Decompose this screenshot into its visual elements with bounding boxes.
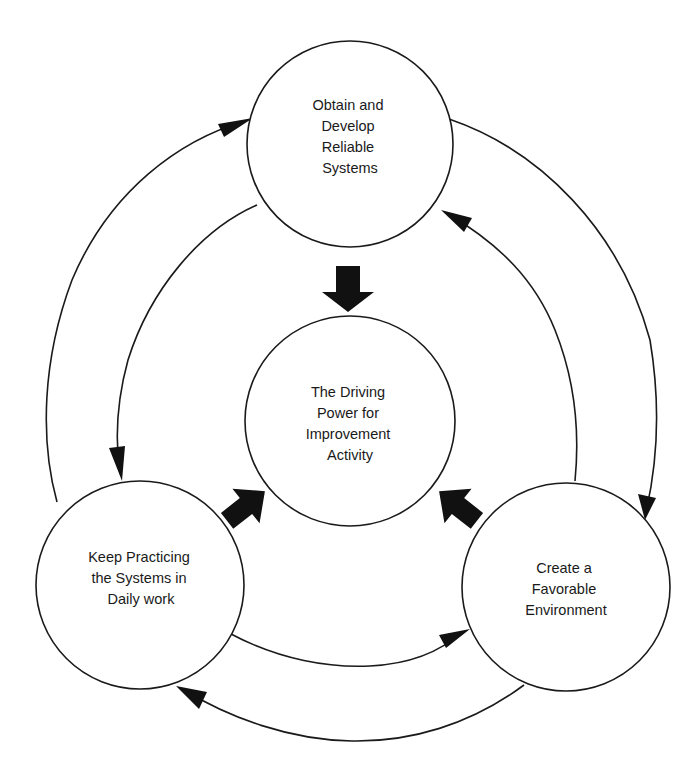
arc-left-to-right-inner (231, 632, 462, 666)
arrowhead-into-top-inner (441, 210, 472, 232)
arc-right-to-left-outer (184, 685, 524, 741)
block-arrow-down-icon (322, 266, 374, 312)
arc-top-to-left-inner (117, 205, 257, 474)
arc-left-to-top-outer (46, 121, 245, 502)
node-right-label: Create a Favorable Environment (525, 560, 606, 618)
arc-right-to-top-inner (450, 215, 577, 481)
arc-top-to-right (449, 119, 656, 512)
arrowhead-into-left-outer (176, 686, 207, 709)
node-center-circle (245, 316, 455, 526)
arrowhead-into-left-inner (109, 446, 125, 481)
improvement-cycle-diagram: Obtain and Develop Reliable Systems The … (0, 0, 700, 778)
